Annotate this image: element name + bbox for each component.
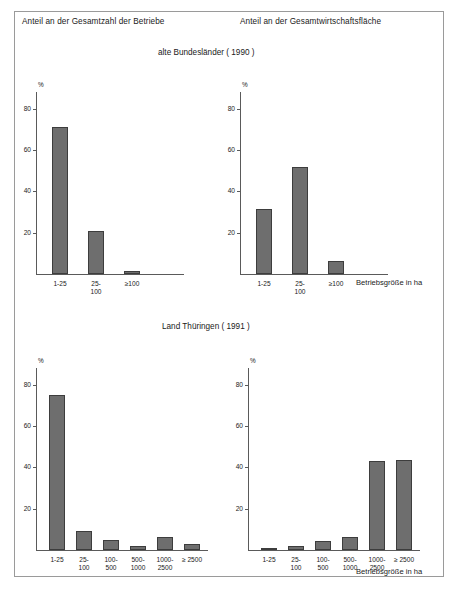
bar-chart-top-left: %204060801-2525- 100≥100: [36, 92, 221, 324]
plot-area: %204060801-2525- 100100- 500500- 1000100…: [248, 368, 418, 550]
y-axis-tick: [245, 426, 249, 427]
plot-area: %204060801-2525- 100≥100: [36, 92, 181, 274]
bar: [130, 546, 146, 550]
bar: [328, 261, 344, 274]
bar-chart-top-right: %204060801-2525- 100≥100: [240, 92, 425, 324]
y-axis-tick-label: 60: [15, 146, 31, 153]
x-axis-category-label: 25- 100: [283, 280, 317, 296]
axis-caption-bottom: Betriebsgröße in ha: [356, 567, 422, 576]
x-axis-category-label: ≥100: [115, 280, 149, 288]
y-axis-line: [240, 92, 241, 274]
y-axis-line: [36, 368, 37, 550]
header-left-caption: Anteil an der Gesamtzahl der Betriebe: [22, 17, 165, 26]
y-axis-tick: [245, 509, 249, 510]
bar: [103, 540, 119, 550]
bar: [292, 167, 308, 274]
bar-chart-bottom-right: %204060801-2525- 100100- 500500- 1000100…: [248, 368, 458, 592]
bar: [288, 546, 304, 550]
y-axis-unit-label: %: [38, 357, 44, 364]
y-axis-tick: [33, 109, 37, 110]
y-axis-tick: [33, 467, 37, 468]
y-axis-tick-label: 40: [227, 463, 243, 470]
y-axis-tick: [33, 385, 37, 386]
y-axis-tick-label: 80: [15, 381, 31, 388]
bar: [52, 127, 68, 274]
x-axis-category-label: 1-25: [247, 280, 281, 288]
bar-chart-bottom-left: %204060801-2525- 100100- 500500- 1000100…: [36, 368, 246, 592]
y-axis-tick-label: 20: [15, 505, 31, 512]
y-axis-tick-label: 40: [219, 187, 235, 194]
bar: [369, 461, 385, 550]
x-axis-line: [36, 550, 208, 551]
bar: [49, 395, 65, 550]
y-axis-tick: [237, 191, 241, 192]
y-axis-tick-label: 80: [15, 105, 31, 112]
axis-caption-top: Betriebsgröße in ha: [356, 278, 422, 287]
y-axis-tick: [237, 150, 241, 151]
y-axis-tick-label: 40: [15, 187, 31, 194]
bar: [342, 537, 358, 550]
bar: [157, 537, 173, 550]
y-axis-tick-label: 60: [219, 146, 235, 153]
plot-area: %204060801-2525- 100100- 500500- 1000100…: [36, 368, 206, 550]
y-axis-tick-label: 60: [15, 422, 31, 429]
y-axis-tick: [245, 467, 249, 468]
y-axis-line: [36, 92, 37, 274]
y-axis-tick-label: 20: [219, 229, 235, 236]
x-axis-category-label: ≥100: [319, 280, 353, 288]
y-axis-unit-label: %: [242, 81, 248, 88]
y-axis-unit-label: %: [38, 81, 44, 88]
bar: [88, 231, 104, 274]
x-axis-line: [240, 274, 388, 275]
y-axis-tick: [33, 191, 37, 192]
bar: [261, 548, 277, 550]
header-right-caption: Anteil an der Gesamtwirtschaftsfläche: [240, 17, 381, 26]
y-axis-tick: [33, 150, 37, 151]
plot-area: %204060801-2525- 100≥100: [240, 92, 385, 274]
bar: [315, 541, 331, 550]
y-axis-tick-label: 80: [227, 381, 243, 388]
y-axis-tick-label: 20: [227, 505, 243, 512]
x-axis-category-label: 25- 100: [79, 280, 113, 296]
x-axis-line: [248, 550, 420, 551]
bar: [76, 531, 92, 550]
section-title-top: alte Bundesländer ( 1990 ): [158, 48, 255, 57]
bar: [124, 271, 140, 274]
y-axis-unit-label: %: [250, 357, 256, 364]
x-axis-category-label: ≥ 2500: [175, 556, 209, 564]
y-axis-tick: [33, 426, 37, 427]
y-axis-tick: [245, 385, 249, 386]
bar: [184, 544, 200, 550]
y-axis-tick-label: 60: [227, 422, 243, 429]
y-axis-tick: [237, 109, 241, 110]
y-axis-tick: [33, 233, 37, 234]
x-axis-category-label: ≥ 2500: [387, 556, 421, 564]
y-axis-tick-label: 20: [15, 229, 31, 236]
y-axis-tick-label: 80: [219, 105, 235, 112]
y-axis-tick: [237, 233, 241, 234]
y-axis-tick-label: 40: [15, 463, 31, 470]
bar: [256, 209, 272, 274]
x-axis-line: [36, 274, 184, 275]
x-axis-category-label: 1-25: [43, 280, 77, 288]
bar: [396, 460, 412, 550]
y-axis-tick: [33, 509, 37, 510]
y-axis-line: [248, 368, 249, 550]
